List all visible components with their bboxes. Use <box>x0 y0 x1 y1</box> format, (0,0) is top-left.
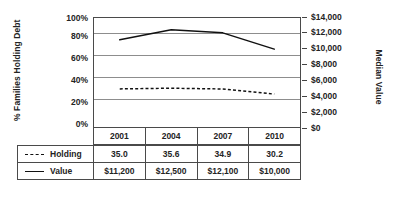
solid-line-swatch-icon <box>25 171 44 172</box>
holding-value-2010: 30.2 <box>249 146 300 162</box>
right-tick-4000: $4,000 <box>311 92 337 101</box>
legend-label-value: Value <box>50 166 72 176</box>
left-tick-80: 80% <box>71 32 88 41</box>
right-tick-8000: $8,000 <box>311 60 337 69</box>
legend-label-holding: Holding <box>50 149 82 159</box>
series-lines <box>94 18 300 127</box>
right-tickmark-14000 <box>302 17 307 18</box>
legend-entry-value: Value <box>18 163 94 179</box>
left-tick-100: 100% <box>66 14 88 23</box>
right-tickmark-4000 <box>302 96 307 97</box>
table-row-value: Value $11,200 $12,500 $12,100 $10,000 <box>18 163 300 179</box>
value-value-2010: $10,000 <box>249 163 300 179</box>
right-tickmark-12000 <box>302 32 307 33</box>
right-tick-6000: $6,000 <box>311 76 337 85</box>
right-axis-ticks: $14,000 $12,000 $10,000 $8,000 $6,000 $4… <box>311 0 367 197</box>
left-axis-title: % Families Holding Debt <box>12 25 22 121</box>
holding-value-2007: 34.9 <box>198 146 250 162</box>
right-tickmark-10000 <box>302 48 307 49</box>
data-table: Holding 35.0 35.6 34.9 30.2 Value $11,20… <box>17 145 301 180</box>
right-tickmark-0 <box>302 128 307 129</box>
plot-area <box>93 17 301 128</box>
right-tick-14000: $14,000 <box>311 13 342 22</box>
x-axis-year-row: 2001 2004 2007 2010 <box>93 128 301 145</box>
left-tick-40: 40% <box>71 76 88 85</box>
left-tick-60: 60% <box>71 54 88 63</box>
x-axis-year-2001: 2001 <box>94 128 146 144</box>
table-row-holding: Holding 35.0 35.6 34.9 30.2 <box>18 146 300 163</box>
right-tickmark-6000 <box>302 80 307 81</box>
right-tickmark-2000 <box>302 112 307 113</box>
right-tick-10000: $10,000 <box>311 44 342 53</box>
legend-entry-holding: Holding <box>18 146 94 162</box>
holding-series-line <box>120 88 275 94</box>
left-tick-20: 20% <box>71 98 88 107</box>
dashed-line-swatch-icon <box>25 154 44 155</box>
value-value-2007: $12,100 <box>198 163 250 179</box>
holding-value-2004: 35.6 <box>146 146 198 162</box>
right-tick-0: $0 <box>311 124 320 133</box>
x-axis-year-2010: 2010 <box>249 128 300 144</box>
right-tick-2000: $2,000 <box>311 108 337 117</box>
holding-value-2001: 35.0 <box>94 146 146 162</box>
value-series-line <box>120 30 275 49</box>
chart-figure: % Families Holding Debt Median Value 100… <box>0 0 399 197</box>
right-tick-12000: $12,000 <box>311 28 342 37</box>
x-axis-year-2007: 2007 <box>198 128 250 144</box>
value-value-2004: $12,500 <box>146 163 198 179</box>
left-tick-0: 0% <box>76 120 88 129</box>
x-axis-year-2004: 2004 <box>146 128 198 144</box>
right-tickmark-8000 <box>302 64 307 65</box>
value-value-2001: $11,200 <box>94 163 146 179</box>
right-axis-title: Median Value <box>374 29 384 125</box>
